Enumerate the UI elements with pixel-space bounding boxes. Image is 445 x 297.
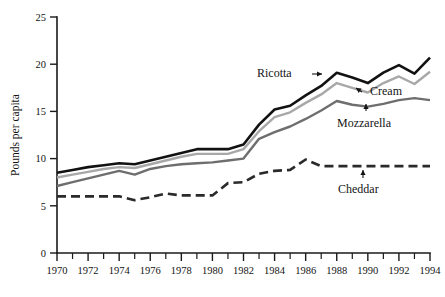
y-tick-label-15: 15	[36, 106, 47, 117]
x-tick-label-1986: 1986	[295, 265, 316, 276]
annotation-arrowhead-cheddar	[360, 170, 365, 175]
x-tick-label-1974: 1974	[109, 265, 131, 276]
x-tick-label-1990: 1990	[357, 265, 378, 276]
annotation-ricotta: Ricotta	[257, 66, 322, 80]
y-tick-label-25: 25	[36, 12, 47, 23]
y-tick-label-10: 10	[36, 153, 47, 164]
y-tick-label-20: 20	[36, 59, 47, 70]
x-tick-label-1984: 1984	[264, 265, 286, 276]
x-tick-label-1970: 1970	[47, 265, 68, 276]
x-axis-ticks: 1970197219741976197819801982198419861988…	[47, 253, 442, 276]
chart-container: 0510152025 19701972197419761978198019821…	[0, 0, 445, 297]
annotation-arrowhead-ricotta	[317, 71, 322, 76]
annotation-label-ricotta: Ricotta	[257, 66, 292, 80]
x-tick-label-1980: 1980	[202, 265, 223, 276]
annotation-label-cheddar: Cheddar	[338, 182, 379, 196]
x-tick-label-1988: 1988	[326, 265, 347, 276]
x-tick-label-1976: 1976	[140, 265, 161, 276]
x-tick-label-1994: 1994	[420, 265, 442, 276]
x-tick-label-1992: 1992	[388, 265, 409, 276]
y-tick-label-5: 5	[41, 201, 46, 212]
annotation-cheddar: Cheddar	[338, 170, 379, 196]
x-tick-label-1972: 1972	[78, 265, 99, 276]
x-tick-label-1978: 1978	[171, 265, 192, 276]
annotation-label-cream: Cream	[370, 84, 403, 98]
y-tick-label-0: 0	[41, 248, 46, 259]
x-tick-label-1982: 1982	[233, 265, 254, 276]
line-chart: 0510152025 19701972197419761978198019821…	[0, 0, 445, 297]
y-axis-ticks: 0510152025	[36, 12, 58, 259]
annotation-mozzarella: Mozzarella	[337, 104, 392, 130]
annotation-label-mozzarella: Mozzarella	[337, 116, 392, 130]
series-line-mozzarella	[57, 98, 430, 186]
y-axis-title: Pounds per capita	[9, 94, 22, 176]
